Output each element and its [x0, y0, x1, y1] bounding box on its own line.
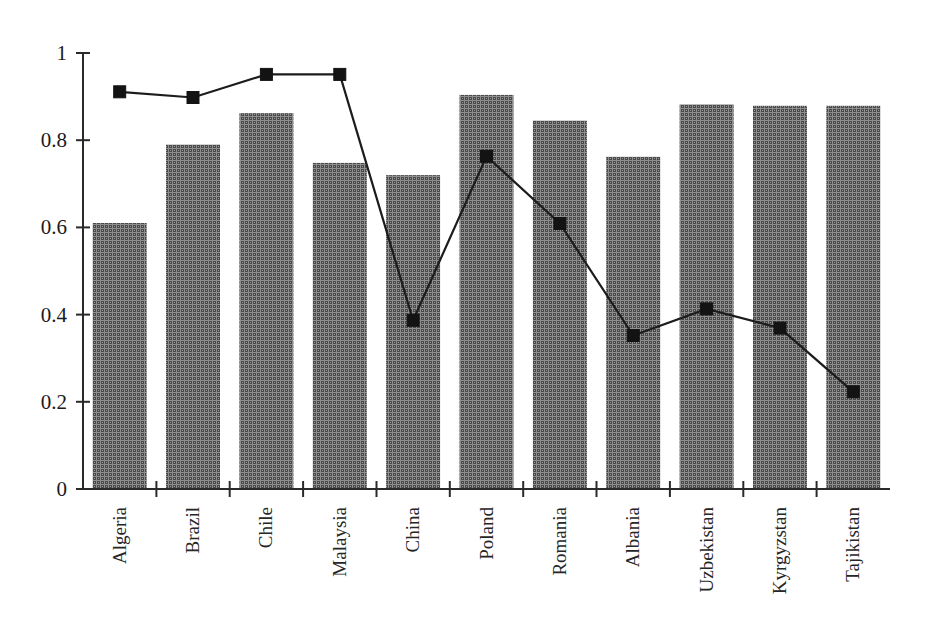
bar-tajikistan	[826, 106, 880, 489]
bar-chile	[239, 113, 293, 489]
bar-rect	[826, 106, 880, 489]
x-tick-label-poland: Poland	[476, 507, 497, 560]
line-marker-kyrgyzstan	[774, 322, 786, 334]
y-tick-label: 0.8	[41, 128, 67, 152]
y-tick-label: 0.2	[41, 390, 67, 414]
bar-rect	[680, 104, 734, 489]
line-marker-brazil	[187, 92, 199, 104]
x-tick-label-malaysia: Malaysia	[329, 506, 350, 576]
bar-rect	[606, 157, 660, 489]
bar-algeria	[93, 223, 147, 489]
line-marker-uzbekistan	[701, 303, 713, 315]
y-tick-label: 0	[57, 477, 68, 501]
bar-albania	[606, 157, 660, 489]
bar-rect	[386, 175, 440, 489]
bar-rect	[239, 113, 293, 489]
bar-rect	[313, 163, 367, 489]
bar-malaysia	[313, 163, 367, 489]
bar-rect	[166, 145, 220, 489]
line-marker-algeria	[114, 86, 126, 98]
x-tick-label-china: China	[402, 506, 423, 552]
x-tick-label-uzbekistan: Uzbekistan	[696, 507, 717, 593]
x-tick-label-kyrgyzstan: Kyrgyzstan	[769, 507, 790, 595]
bar-line-combo-chart: 00.20.40.60.81 AlgeriaBrazilChileMalaysi…	[0, 0, 932, 636]
line-marker-malaysia	[334, 68, 346, 80]
x-tick-label-romania: Romania	[549, 506, 570, 575]
bar-rect	[93, 223, 147, 489]
line-marker-china	[407, 314, 419, 326]
chart-container: 00.20.40.60.81 AlgeriaBrazilChileMalaysi…	[0, 0, 932, 636]
line-marker-albania	[627, 330, 639, 342]
x-tick-label-albania: Albania	[622, 506, 643, 567]
line-marker-chile	[260, 68, 272, 80]
line-marker-romania	[554, 218, 566, 230]
bar-rect	[533, 121, 587, 489]
x-tick-label-chile: Chile	[255, 507, 276, 548]
bar-uzbekistan	[680, 104, 734, 489]
bar-china	[386, 175, 440, 489]
bar-kyrgyzstan	[753, 106, 807, 489]
x-tick-label-algeria: Algeria	[109, 506, 130, 564]
y-tick-label: 0.6	[41, 215, 67, 239]
x-tick-label-tajikistan: Tajikistan	[842, 507, 863, 582]
bar-brazil	[166, 145, 220, 489]
line-marker-tajikistan	[847, 386, 859, 398]
bar-romania	[533, 121, 587, 489]
bar-rect	[753, 106, 807, 489]
y-tick-label: 1	[57, 41, 68, 65]
line-marker-poland	[481, 150, 493, 162]
x-tick-label-brazil: Brazil	[182, 507, 203, 553]
y-tick-label: 0.4	[41, 303, 68, 327]
